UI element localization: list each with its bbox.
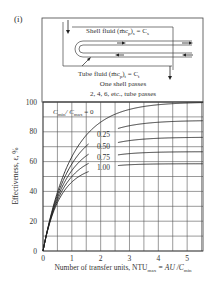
tube-fluid-label: Tube fluid (ṁcp)t = Ct (78, 70, 140, 79)
curve-label: 0.50 (97, 142, 110, 151)
curve-labels: 0.250.500.751.00 (97, 130, 110, 172)
y-tick-label: 40 (30, 187, 38, 196)
curve-label: 0.25 (97, 130, 110, 139)
y-tick-label: 60 (30, 157, 38, 166)
chart-grid (43, 102, 203, 251)
x-tick-label: 2 (99, 254, 103, 263)
x-tick-label: 3 (128, 254, 132, 263)
shell-pass-label: One shell passes (100, 80, 147, 88)
chart-ticks: 012345020406080100 (26, 98, 190, 264)
panel-label: (i) (14, 14, 23, 24)
x-tick-label: 5 (185, 254, 189, 263)
x-tick-label: 1 (70, 254, 74, 263)
tube-pass-label: 2, 4, 6, etc., tube passes (90, 90, 156, 98)
curve-label: 1.00 (97, 163, 110, 172)
x-axis-label: Number of transfer units, NTUmax = AU /C… (54, 263, 192, 273)
legend-title: Cmin/ Cmax = 0 (53, 108, 94, 117)
effectiveness-ntu-figure: (i) Shell fluid (ṁcp)s = (0, 0, 222, 288)
curve-cr-1-00 (43, 164, 203, 251)
x-tick-label: 4 (156, 254, 160, 263)
x-tick-label: 0 (41, 254, 45, 263)
exchanger-schematic: Shell fluid (ṁcp)s = Cs Tube fluid (ṁcp)… (42, 18, 203, 102)
shell-fluid-label: Shell fluid (ṁcp)s = Cs (86, 27, 149, 36)
y-axis-label: Effectiveness, ε, % (11, 147, 20, 204)
curve-label: 0.75 (97, 153, 110, 162)
curve-cr-0-25 (43, 121, 203, 251)
y-tick-label: 80 (30, 127, 38, 136)
y-tick-label: 0 (33, 247, 37, 256)
y-tick-label: 20 (30, 217, 38, 226)
y-tick-label: 100 (26, 98, 38, 107)
